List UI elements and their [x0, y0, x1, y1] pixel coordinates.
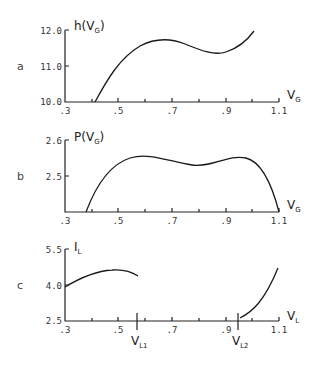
xtick-b-0: .3	[60, 216, 71, 226]
panel-letter-c: c	[17, 279, 23, 292]
xlabel-b: VG	[287, 198, 301, 214]
panel-letter-b: b	[17, 170, 24, 183]
vl1-label: VL1	[131, 334, 148, 350]
ylabel-b: P(VG)	[74, 130, 104, 146]
axes-b	[65, 140, 279, 212]
ytick-c-40: 4.0	[46, 281, 62, 291]
xtick-c-4: 1.1	[271, 325, 287, 335]
xtick-c-3: .9	[221, 325, 232, 335]
xtick-b-3: .9	[221, 216, 232, 226]
panel-letter-a: a	[17, 60, 24, 73]
panel-b: b 2.6 2.5 .3 .5 .7 .9 1.1 P(VG) VG	[17, 130, 301, 226]
xtick-a-0: .3	[60, 106, 71, 116]
xtick-c-1: .5	[113, 325, 124, 335]
ytick-b-25: 2.5	[46, 172, 62, 182]
xtick-a-2: .7	[167, 106, 178, 116]
vl2-label: VL2	[232, 334, 249, 350]
figure: a 12.0 11.0 10.0 .3 .5 .7 .9 1.1 h(VG) V…	[0, 0, 311, 368]
ytick-c-55: 5.5	[46, 245, 62, 255]
panel-c: c 5.5 4.0 2.5 .3 .5 .7 .9 1.1 IL VL VL1 …	[17, 240, 299, 350]
xtick-c-2: .7	[167, 325, 178, 335]
curve-p	[86, 156, 279, 212]
xtick-a-4: 1.1	[271, 106, 287, 116]
xtick-a-1: .5	[113, 106, 124, 116]
xtick-b-2: .7	[167, 216, 178, 226]
xtick-a-3: .9	[221, 106, 232, 116]
ylabel-c: IL	[74, 240, 82, 256]
curve-h	[95, 31, 254, 102]
xtick-c-0: .3	[60, 325, 71, 335]
curve-il-branch1	[65, 270, 138, 287]
ytick-b-26: 2.6	[46, 136, 62, 146]
curve-il-branch2	[240, 268, 278, 318]
ytick-a-12: 12.0	[40, 26, 62, 36]
xtick-b-1: .5	[113, 216, 124, 226]
xtick-b-4: 1.1	[271, 216, 287, 226]
ytick-a-11: 11.0	[40, 62, 62, 72]
xlabel-c: VL	[287, 309, 299, 325]
xlabel-a: VG	[287, 88, 301, 104]
panel-a: a 12.0 11.0 10.0 .3 .5 .7 .9 1.1 h(VG) V…	[17, 19, 301, 116]
ylabel-a: h(VG)	[74, 19, 105, 35]
axes-c	[65, 249, 279, 321]
